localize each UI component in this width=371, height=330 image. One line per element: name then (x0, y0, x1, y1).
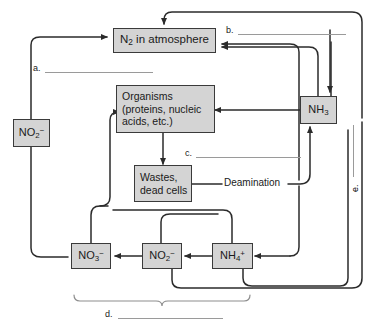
nitrogen-cycle-diagram: a. b. c. d. e. Deamination N2 in atmosph… (0, 0, 371, 330)
blank-line-e (353, 125, 354, 177)
node-nitrite-bottom: NO2− (142, 243, 182, 269)
wire-nitrate-up (91, 206, 108, 243)
organisms-line-1: Organisms (122, 90, 173, 102)
label-c: c. (185, 148, 192, 158)
nitrite-left-text: NO2− (19, 126, 45, 140)
blank-line-c (196, 157, 301, 158)
blank-line-d (118, 318, 223, 319)
node-n2-text: N2 in atmosphere (120, 33, 209, 48)
wire-nitrite-left-to-n2 (31, 37, 107, 119)
wire-deamination-to-n2 (222, 44, 299, 180)
nitrite-bottom-text: NO2− (149, 249, 175, 263)
ammonium-bottom-text: NH4+ (220, 249, 245, 263)
label-d: d. (105, 309, 113, 319)
deamination-label: Deamination (224, 177, 280, 188)
wire-nitrite-left-down-to-nitrate (31, 147, 68, 257)
node-ammonium-bottom: NH4+ (212, 243, 253, 269)
wire-nitrite-bottom-up (161, 214, 218, 243)
organisms-line-3: acids, etc.) (122, 115, 173, 127)
organisms-line-2: (proteins, nucleic (122, 103, 201, 115)
wastes-line-2: dead cells (140, 184, 187, 196)
wire-right-riser-into-ammonium (290, 186, 299, 256)
nitrate-bottom-text: NO3− (78, 249, 104, 263)
wire-nh3-to-n2-upper (222, 47, 318, 96)
blank-line-a (45, 72, 153, 73)
node-wastes-dead-cells: Wastes, dead cells (134, 165, 192, 202)
wire-nitrite-bottom-to-outer-right (172, 122, 362, 288)
wire-ammonium-up-left (113, 210, 232, 243)
label-b: b. (226, 25, 234, 35)
nh3-text: NH3 (308, 103, 328, 117)
wastes-line-1: Wastes, (140, 171, 178, 183)
node-nitrate-bottom: NO3− (71, 243, 111, 269)
brace-d (74, 295, 250, 306)
node-nh3: NH3 (300, 96, 337, 124)
wire-ammonium-bottom-to-outer-right (243, 130, 348, 286)
label-e: e. (350, 184, 360, 192)
label-a: a. (33, 63, 41, 73)
node-organisms: Organisms (proteins, nucleic acids, etc.… (116, 85, 215, 133)
blank-line-b (238, 34, 346, 35)
node-n2-atmosphere: N2 in atmosphere (113, 28, 216, 53)
node-nitrite-left: NO2− (13, 119, 50, 147)
